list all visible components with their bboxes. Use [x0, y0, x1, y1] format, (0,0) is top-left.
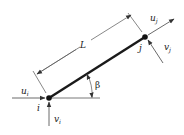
angle-arrow-bottom	[92, 93, 93, 98]
u-i-label: ui	[21, 86, 29, 97]
v-j-label: vj	[164, 42, 171, 54]
node-i	[46, 95, 52, 101]
length-label: L	[79, 40, 86, 50]
v-j-arrow	[148, 40, 163, 63]
dimension-line-L-left	[37, 50, 76, 75]
truss-element-diagram: L β i ui vi j uj vj	[0, 0, 184, 135]
node-i-label: i	[37, 103, 40, 113]
node-j-label: j	[137, 43, 142, 53]
node-j	[142, 34, 148, 40]
diagram-canvas: L β i ui vi j uj vj	[0, 0, 184, 135]
dimension-line-L-right	[91, 15, 131, 40]
dimension-extension-i	[33, 71, 46, 93]
v-i-label: vi	[54, 114, 61, 125]
u-j-label: uj	[150, 13, 158, 25]
angle-beta-label: β	[95, 80, 100, 90]
